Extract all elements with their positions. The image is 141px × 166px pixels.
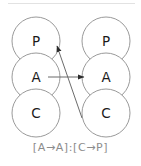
node-left-p-label: P: [32, 33, 40, 49]
node-right-c-label: C: [101, 105, 110, 121]
right-column: P A C: [82, 17, 130, 137]
figure-caption: [A→A]:[C→P]: [0, 141, 141, 154]
node-right-a-label: A: [101, 69, 111, 85]
tree-mapping-figure: P A C P A C [A→A]:[C→P]: [0, 0, 141, 166]
node-left-c-label: C: [31, 105, 40, 121]
node-left-a-label: A: [31, 69, 41, 85]
edge-right-c-to-left-p-arrow: [57, 46, 82, 118]
node-right-p-label: P: [102, 33, 110, 49]
